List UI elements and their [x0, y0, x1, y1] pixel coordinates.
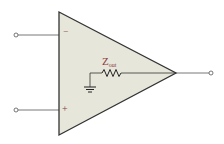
output-terminal [209, 71, 213, 75]
noninverting-input-terminal [14, 108, 18, 112]
zout-label-subscript: out [109, 62, 117, 68]
op-amp-diagram [0, 0, 224, 144]
zout-label-main: Z [102, 55, 109, 67]
inverting-sign: − [63, 27, 68, 36]
noninverting-sign: + [62, 104, 68, 114]
zout-label: Zout [102, 52, 116, 68]
inverting-input-terminal [14, 33, 18, 37]
